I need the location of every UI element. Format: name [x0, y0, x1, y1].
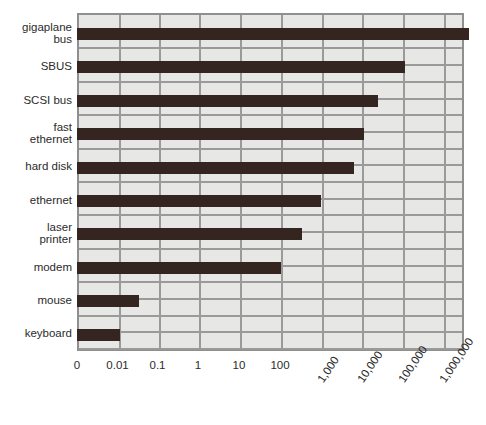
category-label-keyboard: keyboard — [0, 327, 72, 340]
tick-label-0: 0 — [74, 359, 80, 371]
category-label-scsi-bus: SCSI bus — [0, 94, 72, 107]
row-separator — [79, 214, 462, 216]
row-separator — [79, 248, 462, 250]
bar-gigaplane-bus — [77, 28, 469, 40]
row-separator — [79, 114, 462, 116]
category-label-modem: modem — [0, 261, 72, 274]
category-label-laser-printer: laser printer — [0, 221, 72, 246]
row-separator — [79, 148, 462, 150]
bar-scsi-bus — [77, 95, 378, 107]
row-separator — [79, 81, 462, 83]
row-separator — [79, 281, 462, 283]
tick-label-1000: 1,000 — [315, 354, 341, 385]
tick-label-001: 0.01 — [106, 359, 128, 371]
tick-label-10000: 10,000 — [355, 349, 385, 385]
category-label-fast-ethernet: fast ethernet — [0, 121, 72, 146]
row-separator — [79, 331, 462, 333]
row-separator — [79, 181, 462, 183]
row-separator — [79, 315, 462, 317]
category-label-gigaplane-bus: gigaplane bus — [0, 21, 72, 46]
bar-sbus — [77, 61, 405, 73]
bar-laser-printer — [77, 228, 302, 240]
bar-fast-ethernet — [77, 128, 364, 140]
category-label-mouse: mouse — [0, 294, 72, 307]
category-label-hard-disk: hard disk — [0, 160, 72, 173]
category-label-sbus: SBUS — [0, 60, 72, 73]
bar-keyboard — [77, 329, 120, 341]
bar-chart: gigaplane busSBUSSCSI busfast ethernetha… — [0, 0, 486, 425]
tick-label-10: 10 — [233, 359, 246, 371]
bar-mouse — [77, 295, 139, 307]
row-separator — [79, 348, 462, 350]
tick-label-100: 100 — [270, 359, 289, 371]
plot-area — [77, 13, 464, 351]
bar-ethernet — [77, 195, 321, 207]
category-label-ethernet: ethernet — [0, 194, 72, 207]
tick-label-1: 1 — [195, 359, 201, 371]
bar-modem — [77, 262, 281, 274]
tick-label-01: 0.1 — [150, 359, 166, 371]
bar-hard-disk — [77, 162, 354, 174]
row-separator — [79, 47, 462, 49]
